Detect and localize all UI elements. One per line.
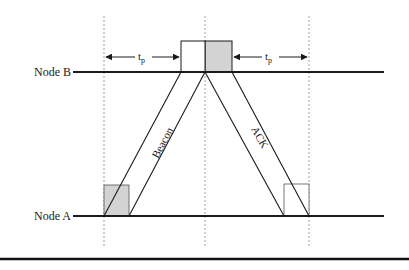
svg-text:tp: tp [265, 50, 272, 65]
right-tp-arrow: tp [234, 50, 307, 65]
node-b-tx-slot [205, 41, 232, 72]
node-a-rx-slot [284, 184, 309, 216]
node-a-tx-slot [104, 185, 129, 216]
left-tp-arrow: tp [106, 50, 179, 65]
node-a-label: Node A [34, 209, 71, 223]
node-b-rx-slot [181, 41, 205, 72]
ack-label: ACK [249, 124, 271, 150]
timing-diagram: tp tp Node B Node A Beacon ACK [0, 0, 409, 270]
beacon-label: Beacon [149, 125, 175, 160]
svg-text:tp: tp [138, 50, 145, 65]
node-b-label: Node B [34, 65, 71, 79]
